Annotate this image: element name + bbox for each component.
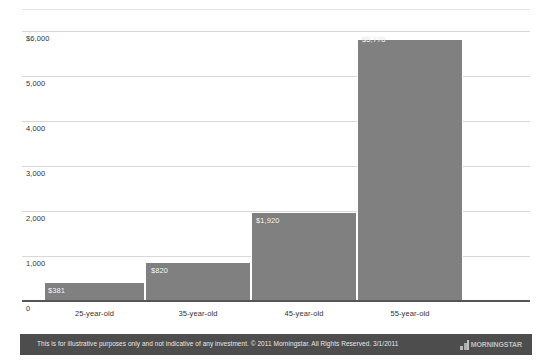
morningstar-logo-text: MORNINGSTAR xyxy=(471,341,522,348)
gridline-3000 xyxy=(22,166,530,167)
gridline-2000 xyxy=(22,211,530,212)
x-tick-label-35-year-old: 35-year-old xyxy=(145,309,251,318)
gridline-4000 xyxy=(22,121,530,122)
x-tick-label-55-year-old: 55-year-old xyxy=(357,309,463,318)
axis-baseline xyxy=(22,300,530,302)
x-tick-label-45-year-old: 45-year-old xyxy=(251,309,357,318)
morningstar-logo-icon xyxy=(460,340,469,350)
y-tick-label-0: 0 xyxy=(26,304,30,314)
y-tick-label-3000: 3,000 xyxy=(26,169,45,179)
y-tick-label-4000: 4,000 xyxy=(26,124,45,134)
y-tick-label-1000: 1,000 xyxy=(26,259,45,269)
footer-band: This is for illustrative purposes only a… xyxy=(20,334,532,355)
gridline-1000 xyxy=(22,256,530,257)
gridline-6000 xyxy=(22,31,530,32)
gridline-5000 xyxy=(22,76,530,77)
y-tick-label-5000: 5,000 xyxy=(26,79,45,89)
y-tick-label-2000: 2,000 xyxy=(26,214,45,224)
bar-chart: $6,000 5,000 4,000 3,000 2,000 1,000 0 $… xyxy=(0,0,555,364)
y-tick-label-6000: $6,000 xyxy=(26,34,50,44)
footer-disclaimer-text: This is for illustrative purposes only a… xyxy=(37,340,398,347)
x-tick-label-25-year-old: 25-year-old xyxy=(44,309,145,318)
plot-area xyxy=(22,9,530,300)
morningstar-logo: MORNINGSTAR xyxy=(460,338,522,351)
